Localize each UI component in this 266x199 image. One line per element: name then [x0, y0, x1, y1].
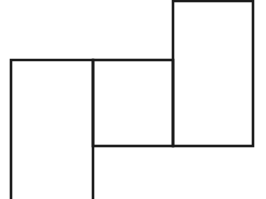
middle-square	[93, 60, 173, 146]
three-rectangles-diagram	[0, 0, 266, 199]
left-rectangle	[11, 60, 93, 199]
diagram-canvas	[0, 0, 266, 199]
right-tall-rectangle-outline	[173, 1, 253, 146]
right-tall-rectangle	[173, 1, 253, 146]
middle-square-outline	[93, 60, 173, 146]
left-rectangle-outline	[11, 60, 93, 199]
